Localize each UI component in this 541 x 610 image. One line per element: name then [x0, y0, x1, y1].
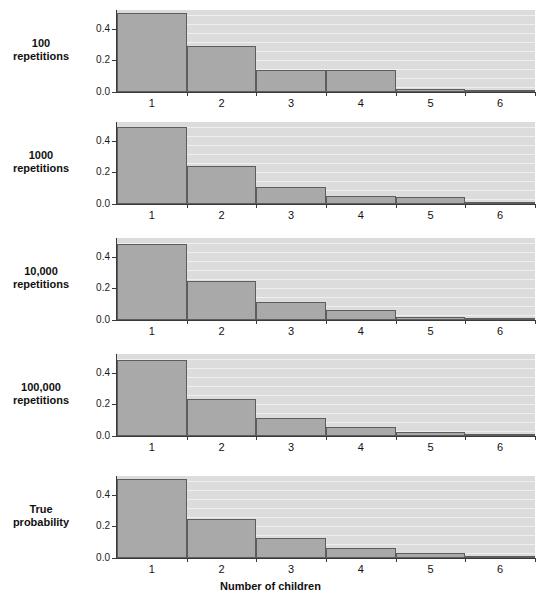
y-tick [112, 141, 117, 142]
plot-area-2 [117, 122, 535, 204]
plot-area-3 [117, 238, 535, 320]
x-tick-label: 5 [411, 441, 451, 453]
bar [187, 281, 257, 320]
x-tick [535, 558, 536, 562]
y-tick [112, 92, 117, 93]
panel-label-line2: repetitions [0, 162, 82, 175]
bar [326, 548, 396, 558]
x-tick-label: 3 [271, 97, 311, 109]
bar [117, 13, 187, 92]
y-tick-label: 0.2 [84, 167, 110, 177]
x-tick [187, 92, 188, 96]
panel-label-line2: repetitions [0, 278, 82, 291]
x-tick [465, 320, 466, 324]
x-tick-label: 4 [341, 325, 381, 337]
bar [187, 399, 257, 436]
x-tick-label: 2 [202, 441, 242, 453]
x-tick [326, 92, 327, 96]
bar [117, 360, 187, 436]
y-tick-label: 0.4 [84, 368, 110, 378]
plot-area-5 [117, 476, 535, 558]
x-tick-label: 6 [480, 325, 520, 337]
y-tick-label: 0.0 [84, 199, 110, 209]
plot-area-1 [117, 10, 535, 92]
bar [396, 197, 466, 204]
x-tick-label: 1 [132, 97, 172, 109]
y-tick [112, 257, 117, 258]
panel-label-line1: 100 [0, 37, 82, 50]
bar [117, 127, 187, 204]
panel-label-line2: repetitions [0, 394, 82, 407]
panel-label-5: Trueprobability [0, 503, 82, 529]
y-axis-line-1 [116, 10, 117, 92]
x-axis-title: Number of children [0, 580, 541, 592]
panel-label-line1: True [0, 503, 82, 516]
y-tick-label: 0.0 [84, 87, 110, 97]
y-tick [112, 558, 117, 559]
x-tick-label: 6 [480, 209, 520, 221]
bars-group [117, 10, 535, 92]
bar [256, 70, 326, 92]
x-tick [187, 320, 188, 324]
y-axis-line-4 [116, 354, 117, 436]
bar [326, 427, 396, 436]
x-tick [535, 320, 536, 324]
panel-label-line1: 10,000 [0, 265, 82, 278]
x-tick-label: 2 [202, 325, 242, 337]
y-tick [112, 320, 117, 321]
x-tick-label: 5 [411, 97, 451, 109]
x-tick [256, 558, 257, 562]
bar [256, 418, 326, 436]
y-tick-label: 0.4 [84, 490, 110, 500]
x-tick-label: 5 [411, 209, 451, 221]
panel-label-4: 100,000repetitions [0, 381, 82, 407]
y-tick [112, 436, 117, 437]
bars-group [117, 354, 535, 436]
y-tick-label: 0.4 [84, 24, 110, 34]
x-tick-label: 1 [132, 325, 172, 337]
x-tick [396, 320, 397, 324]
panel-label-1: 100repetitions [0, 37, 82, 63]
x-tick [326, 204, 327, 208]
x-tick-label: 3 [271, 325, 311, 337]
y-tick [112, 29, 117, 30]
x-tick-label: 2 [202, 563, 242, 575]
bar [256, 187, 326, 204]
x-tick-label: 3 [271, 209, 311, 221]
bar [326, 310, 396, 320]
x-tick-label: 6 [480, 441, 520, 453]
x-tick [187, 558, 188, 562]
y-tick [112, 288, 117, 289]
y-tick-label: 0.4 [84, 252, 110, 262]
y-axis-line-2 [116, 122, 117, 204]
bar [256, 538, 326, 558]
bars-group [117, 122, 535, 204]
x-tick [396, 204, 397, 208]
y-tick-label: 0.2 [84, 521, 110, 531]
bar [326, 70, 396, 92]
x-tick-label: 2 [202, 209, 242, 221]
x-tick-label: 2 [202, 97, 242, 109]
y-tick-label: 0.2 [84, 399, 110, 409]
plot-area-4 [117, 354, 535, 436]
y-tick-label: 0.0 [84, 553, 110, 563]
x-tick-label: 1 [132, 441, 172, 453]
x-tick [465, 558, 466, 562]
y-tick [112, 172, 117, 173]
bar [187, 519, 257, 558]
y-axis-line-3 [116, 238, 117, 320]
x-tick-label: 4 [341, 209, 381, 221]
y-tick [112, 404, 117, 405]
y-tick [112, 60, 117, 61]
x-tick-label: 6 [480, 97, 520, 109]
x-tick-label: 5 [411, 325, 451, 337]
x-tick [535, 92, 536, 96]
bar [117, 479, 187, 558]
bars-group [117, 476, 535, 558]
x-tick [326, 436, 327, 440]
x-tick [465, 204, 466, 208]
bar [117, 244, 187, 320]
x-tick [396, 436, 397, 440]
y-tick-label: 0.2 [84, 283, 110, 293]
x-tick [256, 320, 257, 324]
